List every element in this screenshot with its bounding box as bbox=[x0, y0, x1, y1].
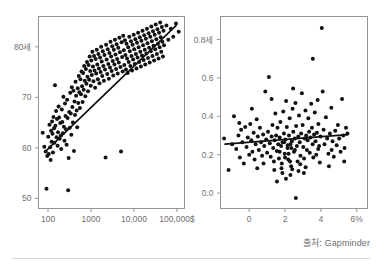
data-point bbox=[281, 110, 285, 114]
data-point bbox=[154, 23, 158, 27]
data-point bbox=[112, 63, 116, 67]
data-point bbox=[107, 77, 111, 81]
data-point bbox=[134, 67, 138, 71]
data-point bbox=[299, 132, 303, 136]
data-point bbox=[91, 79, 95, 83]
data-point bbox=[49, 158, 53, 162]
data-point bbox=[286, 143, 290, 147]
data-point bbox=[314, 153, 318, 157]
data-point bbox=[109, 40, 113, 44]
data-point bbox=[305, 148, 309, 152]
data-point bbox=[285, 125, 289, 129]
data-point bbox=[129, 39, 133, 43]
data-point bbox=[56, 144, 60, 148]
data-point bbox=[270, 135, 274, 139]
data-point bbox=[282, 132, 286, 136]
data-point bbox=[284, 99, 288, 103]
data-point bbox=[97, 67, 101, 71]
right-panel: 0246% 0.00.20.40.60.8세 bbox=[194, 17, 368, 224]
data-point bbox=[306, 116, 310, 120]
data-point bbox=[89, 58, 93, 62]
data-point bbox=[171, 35, 175, 39]
data-point bbox=[272, 159, 276, 163]
data-point bbox=[153, 33, 157, 37]
data-point bbox=[126, 45, 130, 49]
data-point bbox=[50, 132, 54, 136]
data-point bbox=[250, 150, 254, 154]
data-point bbox=[102, 53, 106, 57]
data-point bbox=[309, 102, 313, 106]
data-point bbox=[340, 97, 344, 101]
right-panel-y-axis: 0.00.20.40.60.8세 bbox=[194, 35, 221, 199]
data-point bbox=[155, 27, 159, 31]
data-point bbox=[78, 106, 82, 110]
data-point bbox=[244, 145, 248, 149]
data-point bbox=[148, 35, 152, 39]
data-point bbox=[104, 155, 108, 159]
data-point bbox=[90, 50, 94, 54]
data-point bbox=[269, 155, 273, 159]
data-point bbox=[110, 44, 114, 48]
data-point bbox=[326, 152, 330, 156]
right-panel-trendline bbox=[225, 135, 348, 145]
data-point bbox=[254, 142, 258, 146]
data-point bbox=[118, 65, 122, 69]
data-point bbox=[339, 150, 343, 154]
data-point bbox=[329, 106, 333, 110]
data-point bbox=[122, 63, 126, 67]
y-tick-label: 80세 bbox=[14, 42, 31, 52]
x-tick-label: 100,000$ bbox=[159, 214, 195, 224]
data-point bbox=[327, 164, 331, 168]
data-point bbox=[162, 43, 166, 47]
data-point bbox=[135, 41, 139, 45]
data-point bbox=[288, 116, 292, 120]
data-point bbox=[136, 55, 140, 59]
data-point bbox=[66, 116, 70, 120]
data-point bbox=[159, 50, 163, 54]
data-point bbox=[94, 72, 98, 76]
data-point bbox=[61, 95, 65, 99]
data-point bbox=[84, 82, 88, 86]
data-point bbox=[114, 67, 118, 71]
data-point bbox=[129, 54, 133, 58]
data-point bbox=[313, 111, 317, 115]
data-point bbox=[128, 49, 132, 53]
data-point bbox=[83, 94, 87, 98]
data-point bbox=[70, 105, 74, 109]
data-point bbox=[57, 116, 61, 120]
data-point bbox=[116, 46, 120, 50]
data-point bbox=[70, 85, 74, 89]
data-point bbox=[278, 150, 282, 154]
data-point bbox=[243, 125, 247, 129]
y-tick-label: 0.2 bbox=[202, 150, 214, 160]
data-point bbox=[294, 124, 298, 128]
y-tick-label: 60 bbox=[22, 143, 32, 153]
data-point bbox=[120, 55, 124, 59]
data-point bbox=[44, 187, 48, 191]
data-point bbox=[65, 143, 69, 147]
data-point bbox=[150, 54, 154, 58]
data-point bbox=[63, 101, 67, 105]
x-tick-label: 100 bbox=[41, 214, 55, 224]
data-point bbox=[291, 130, 295, 134]
data-point bbox=[275, 180, 279, 184]
data-point bbox=[316, 122, 320, 126]
data-point bbox=[111, 74, 115, 78]
data-point bbox=[51, 115, 55, 119]
data-point bbox=[131, 43, 135, 47]
data-point bbox=[74, 94, 78, 98]
data-point bbox=[154, 37, 158, 41]
data-point bbox=[53, 124, 57, 128]
data-point bbox=[51, 150, 55, 154]
data-point bbox=[166, 38, 170, 42]
data-point bbox=[73, 99, 77, 103]
data-point bbox=[79, 92, 83, 96]
data-point bbox=[291, 87, 295, 91]
data-point bbox=[288, 159, 292, 163]
data-point bbox=[280, 161, 284, 165]
data-point bbox=[75, 125, 79, 129]
data-point bbox=[141, 29, 145, 33]
data-point bbox=[136, 31, 140, 35]
data-point bbox=[101, 49, 105, 53]
data-point bbox=[246, 135, 250, 139]
